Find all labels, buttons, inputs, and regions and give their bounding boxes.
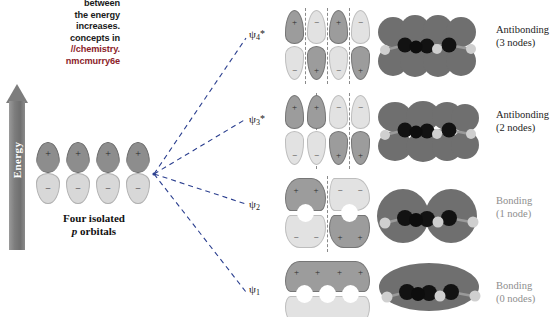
psi3-top-sign-4: − xyxy=(352,102,369,112)
psi4-symbol: ψ xyxy=(249,28,256,40)
psi3-top-lobe-2: + xyxy=(307,95,326,129)
psi4-top-lobe-4: − xyxy=(351,10,370,44)
psi4-node-line-1 xyxy=(305,8,306,84)
psi1-waist-gap-2 xyxy=(319,285,336,303)
psi2-top-sign-3: − xyxy=(332,185,348,195)
psi3-top-lobe-3: − xyxy=(329,95,348,129)
mo-description-psi1: Bonding (0 nodes) xyxy=(496,279,535,305)
psi4-top-sign-2: − xyxy=(308,17,325,27)
psi3-bottom-sign-3: + xyxy=(330,150,347,160)
psi3-node-count: (2 nodes) xyxy=(496,121,549,134)
psi4-bottom-sign-2: + xyxy=(308,65,325,75)
psi1-symbol: ψ xyxy=(249,283,256,295)
psi4-node-line-3 xyxy=(349,8,350,84)
psi2-top-sign-1: + xyxy=(288,185,304,195)
mo-description-psi3: Antibonding (2 nodes) xyxy=(496,108,549,134)
psi1-bonding-type: Bonding xyxy=(496,280,532,291)
mo-row-psi4: ψ4* + − + − − + − + xyxy=(0,0,559,90)
mo-row-psi2: ψ2 + + − − − − + + xyxy=(0,172,559,262)
psi4-bottom-sign-3: − xyxy=(330,65,347,75)
mo-row-psi1: ψ1 + + + + − − − − xyxy=(0,255,559,317)
mo-sign-diagram-psi4: + − + − − + − + xyxy=(284,8,372,84)
mo-label-psi2: ψ2 xyxy=(249,198,260,212)
psi2-bottom-sign-4: + xyxy=(352,232,368,242)
mo-label-psi4: ψ4* xyxy=(249,28,265,42)
psi3-top-sign-1: + xyxy=(286,102,303,112)
psi3-symbol: ψ xyxy=(249,113,256,125)
mo-sign-diagram-psi1: + + + + − − − − xyxy=(284,259,372,317)
psi2-top-sign-2: + xyxy=(308,185,324,195)
psi4-bottom-lobe-1: − xyxy=(285,46,304,80)
psi2-subscript: 2 xyxy=(256,203,260,212)
mo-surface-model-psi3 xyxy=(375,91,485,171)
psi2-waist-gap-left xyxy=(297,204,314,222)
psi4-top-sign-1: + xyxy=(286,17,303,27)
psi3-bottom-lobe-3: + xyxy=(329,131,348,165)
psi3-top-sign-3: − xyxy=(330,102,347,112)
psi3-node-line-2 xyxy=(349,93,350,169)
psi3-bonding-type: Antibonding xyxy=(496,109,549,120)
psi1-top-sign-4: + xyxy=(351,267,370,277)
psi3-bottom-lobe-2: − xyxy=(307,131,326,165)
psi2-waist-gap-right xyxy=(341,204,358,222)
psi1-top-sign-2: + xyxy=(308,267,327,277)
mo-surface-model-psi1 xyxy=(375,257,487,317)
psi3-top-lobe-1: + xyxy=(285,95,304,129)
psi1-bottom-sign-1: − xyxy=(287,312,306,317)
psi3-top-lobe-4: − xyxy=(351,95,370,129)
psi4-bottom-lobe-4: + xyxy=(351,46,370,80)
psi1-bottom-sign-4: − xyxy=(351,312,370,317)
psi4-bottom-lobe-3: − xyxy=(329,46,348,80)
psi1-top-sign-3: + xyxy=(330,267,349,277)
psi1-subscript: 1 xyxy=(256,288,260,297)
psi1-bottom-sign-2: − xyxy=(308,312,327,317)
psi2-bonding-type: Bonding xyxy=(496,195,532,206)
psi4-top-sign-4: − xyxy=(352,17,369,27)
psi4-node-line-2 xyxy=(327,8,328,84)
psi3-bottom-sign-2: − xyxy=(308,150,325,160)
psi4-bottom-lobe-2: + xyxy=(307,46,326,80)
mo-description-psi2: Bonding (1 node) xyxy=(496,194,532,220)
psi2-bottom-sign-1: − xyxy=(288,232,304,242)
mo-label-psi1: ψ1 xyxy=(249,283,260,297)
psi2-node-count: (1 node) xyxy=(496,207,532,220)
psi3-bottom-lobe-1: − xyxy=(285,131,304,165)
psi3-top-sign-2: + xyxy=(308,102,325,112)
mo-surface-model-psi4 xyxy=(375,6,485,86)
psi4-node-count: (3 nodes) xyxy=(496,36,549,49)
psi4-bottom-sign-1: − xyxy=(286,65,303,75)
psi1-node-count: (0 nodes) xyxy=(496,292,535,305)
psi1-waist-gap-1 xyxy=(296,285,313,303)
mo-row-psi3: ψ3* + + − − − − + + xyxy=(0,85,559,175)
mo-surface-model-psi2 xyxy=(375,176,487,256)
psi3-bottom-lobe-4: + xyxy=(351,131,370,165)
mo-description-psi4: Antibonding (3 nodes) xyxy=(496,23,549,49)
psi4-star: * xyxy=(260,28,265,39)
psi1-top-sign-1: + xyxy=(287,267,306,277)
mo-sign-diagram-psi2: + + − − − − + + xyxy=(284,176,372,252)
psi1-bottom-sign-3: − xyxy=(330,312,349,317)
psi3-star: * xyxy=(260,113,265,124)
psi2-bottom-sign-3: + xyxy=(332,232,348,242)
psi4-top-lobe-1: + xyxy=(285,10,304,44)
psi3-bottom-sign-4: + xyxy=(352,150,369,160)
psi4-bonding-type: Antibonding xyxy=(496,24,549,35)
psi2-node-line-1 xyxy=(327,176,328,252)
psi2-bottom-sign-2: − xyxy=(308,232,324,242)
psi2-top-sign-4: − xyxy=(352,185,368,195)
psi4-top-sign-3: + xyxy=(330,17,347,27)
psi4-top-lobe-3: + xyxy=(329,10,348,44)
mo-label-psi3: ψ3* xyxy=(249,113,265,127)
psi4-bottom-sign-4: + xyxy=(352,65,369,75)
psi1-waist-gap-3 xyxy=(342,285,359,303)
mo-diagram-figure: between the energy increases. concepts i… xyxy=(0,0,559,317)
psi2-symbol: ψ xyxy=(249,198,256,210)
psi4-top-lobe-2: − xyxy=(307,10,326,44)
mo-sign-diagram-psi3: + + − − − − + + xyxy=(284,93,372,169)
psi3-bottom-sign-1: − xyxy=(286,150,303,160)
